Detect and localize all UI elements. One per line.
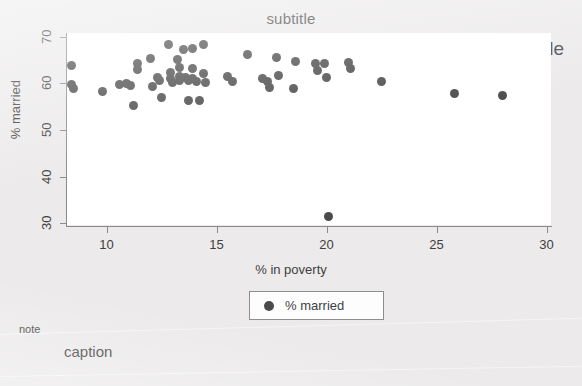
x-tick-label-10: 10 [87,237,127,252]
data-point [450,89,459,98]
data-point [243,50,252,59]
data-point [201,78,210,87]
chart-caption: caption [64,343,112,360]
chart-legend[interactable]: % married [249,291,384,320]
data-point [164,40,173,49]
data-point [498,91,507,100]
x-tick-label-30: 30 [527,237,567,252]
x-tick-10 [107,227,108,233]
y-tick-40 [60,177,66,178]
data-point [173,55,182,64]
x-tick-label-20: 20 [307,237,347,252]
x-tick-20 [327,227,328,233]
legend-label: % married [285,298,344,313]
data-point [98,87,107,96]
x-axis-label: % in poverty [0,262,582,277]
y-tick-label-60: 60 [40,69,53,97]
y-tick-label-40: 40 [40,163,53,191]
y-tick-50 [60,130,66,131]
y-tick-30 [60,223,66,224]
data-point [184,96,193,105]
data-point [228,77,237,86]
data-point [265,83,274,92]
data-point [199,69,208,78]
data-point [67,61,76,70]
y-tick-label-50: 50 [40,116,53,144]
data-point [274,71,283,80]
chart-subtitle: subtitle [0,10,582,27]
x-tick-30 [547,227,548,233]
data-point [129,101,138,110]
x-tick-15 [217,227,218,233]
data-point [289,84,298,93]
data-point [192,77,201,86]
x-tick-label-15: 15 [197,237,237,252]
x-tick-label-25: 25 [417,237,457,252]
y-tick-label-70: 70 [40,23,53,51]
data-point [199,40,208,49]
data-point [188,64,197,73]
y-axis-label: % married [8,80,23,139]
data-point [272,53,281,62]
y-tick-label-30: 30 [40,209,53,237]
y-tick-70 [60,37,66,38]
data-point [322,73,331,82]
y-tick-60 [60,83,66,84]
legend-marker-icon [264,301,274,311]
scatter-plot-figure: subtitle title 3040506070 1015202530 % m… [0,0,582,386]
x-axis-line [66,226,552,227]
data-point [155,76,164,85]
data-point [195,96,204,105]
data-point [69,84,78,93]
x-tick-25 [437,227,438,233]
